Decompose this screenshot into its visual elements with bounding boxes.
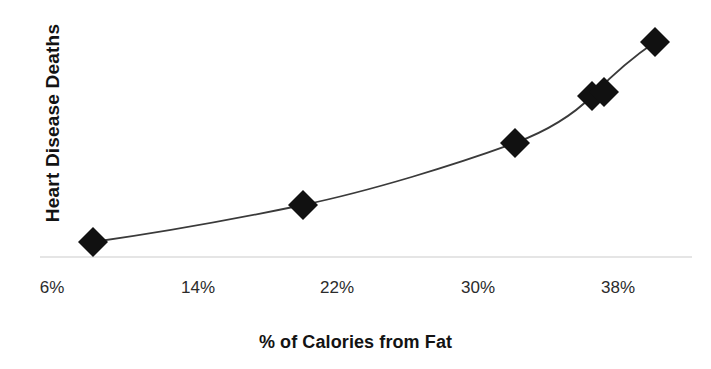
data-marker-group	[78, 27, 670, 257]
plot-svg	[0, 0, 711, 300]
x-axis-title: % of Calories from Fat	[0, 332, 711, 353]
x-tick-label-38: 38%	[601, 278, 635, 298]
chart-figure: Heart Disease Deaths 6% 14% 22% 30% 38% …	[0, 0, 711, 369]
x-tick-label-14: 14%	[181, 278, 215, 298]
x-tick-label-6: 6%	[40, 278, 65, 298]
x-tick-label-22: 22%	[320, 278, 354, 298]
plot-area	[0, 0, 711, 300]
data-point-marker	[640, 27, 670, 57]
data-point-marker	[78, 227, 108, 257]
data-point-marker	[288, 190, 318, 220]
x-axis-tick-labels: 6% 14% 22% 30% 38%	[0, 278, 711, 306]
trend-curve	[93, 42, 655, 242]
x-tick-label-30: 30%	[461, 278, 495, 298]
data-point-marker	[500, 128, 530, 158]
